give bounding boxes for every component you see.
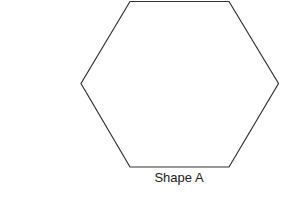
shape-label: Shape A <box>129 170 229 186</box>
diagram-canvas: Shape A <box>0 0 291 211</box>
